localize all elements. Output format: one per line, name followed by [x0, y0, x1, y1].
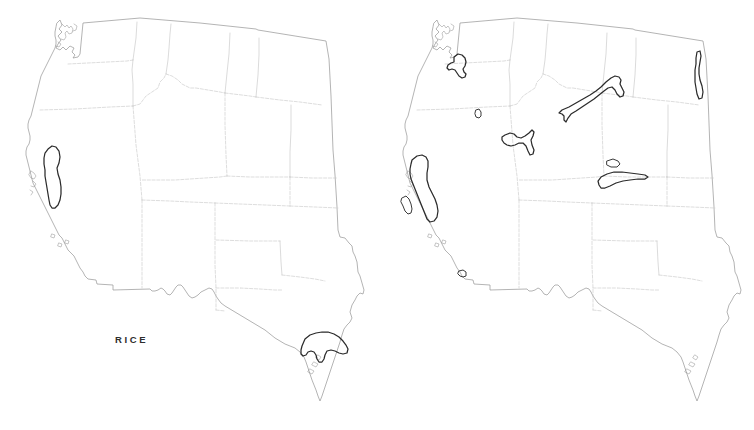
western-us-outline	[26, 18, 364, 401]
map-panel-sugar-beets: SUGAR BEETS	[377, 0, 754, 430]
rice-map	[0, 0, 377, 430]
map-label-rice: RICE	[115, 334, 148, 345]
crop-distribution-figure: RICE	[0, 0, 754, 430]
map-panel-rice: RICE	[0, 0, 377, 430]
crop-area-salinas-valley	[401, 196, 412, 214]
western-us-outline	[403, 18, 741, 401]
sugar-beets-map	[377, 0, 754, 430]
